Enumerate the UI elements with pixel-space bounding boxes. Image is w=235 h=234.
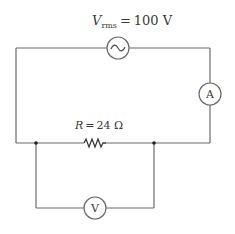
- svg-text:A: A: [205, 88, 215, 101]
- ammeter-icon: A: [199, 83, 221, 105]
- junction-right: [152, 141, 156, 145]
- resistor-icon: [84, 139, 106, 147]
- circuit-diagram: Vrms=100 V R=24 Ω A V: [0, 0, 235, 234]
- ac-source-icon: [107, 37, 129, 59]
- source-voltage-label: Vrms=100 V: [92, 13, 173, 30]
- svg-text:V: V: [90, 202, 100, 215]
- voltmeter-icon: V: [84, 197, 106, 219]
- junction-left: [34, 141, 38, 145]
- resistor-label: R=24 Ω: [74, 119, 123, 132]
